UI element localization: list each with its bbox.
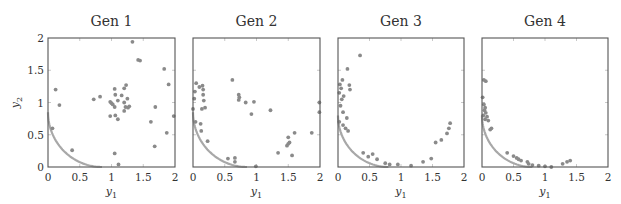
data-point — [429, 157, 433, 161]
x-tick-label: 0.5 — [71, 171, 88, 183]
data-point — [162, 67, 166, 71]
x-tick-label: 2 — [172, 171, 179, 183]
pareto-front-curve — [482, 115, 532, 167]
y-tick-label: 1.5 — [27, 64, 44, 76]
data-point — [113, 152, 117, 156]
x-tick-label: 1 — [108, 171, 115, 183]
data-point — [199, 129, 203, 133]
data-point — [149, 120, 153, 124]
data-point — [341, 123, 345, 127]
data-point — [58, 103, 62, 107]
y-tick-label: 0 — [37, 161, 44, 173]
data-point — [244, 101, 248, 105]
data-point — [252, 100, 256, 104]
data-point — [113, 87, 117, 91]
plot-frame — [338, 38, 464, 167]
data-point — [342, 94, 346, 98]
data-point — [201, 84, 205, 88]
data-point — [347, 83, 351, 87]
data-point — [519, 159, 523, 163]
data-point — [276, 151, 280, 155]
data-point — [113, 114, 117, 118]
data-point — [108, 114, 112, 118]
data-point — [127, 104, 131, 108]
data-point — [505, 151, 509, 155]
x-axis-label: y1 — [250, 185, 262, 200]
data-point — [113, 105, 117, 109]
x-tick-label: 1 — [542, 171, 549, 183]
x-axis-label: y1 — [394, 185, 406, 200]
data-point — [153, 144, 157, 148]
data-point — [120, 94, 124, 98]
data-point — [340, 97, 344, 101]
data-point — [138, 59, 142, 63]
x-tick-label: 1.5 — [280, 171, 297, 183]
data-point — [122, 101, 126, 105]
data-point — [194, 81, 198, 85]
panel-title: Gen 4 — [524, 13, 566, 29]
data-point — [388, 163, 392, 167]
data-point — [70, 148, 74, 152]
plot-frame — [193, 38, 320, 167]
data-point — [124, 83, 128, 87]
data-point — [237, 98, 241, 102]
x-tick-label: 0 — [335, 171, 342, 183]
x-tick-label: 1.5 — [135, 171, 152, 183]
data-point — [396, 163, 400, 167]
x-tick-label: 0.5 — [361, 171, 378, 183]
data-point — [233, 160, 237, 164]
pareto-front-curve — [338, 115, 388, 167]
data-point — [345, 116, 349, 120]
panel-title: Gen 3 — [380, 13, 422, 29]
data-point — [125, 97, 129, 101]
data-point — [346, 67, 350, 71]
data-point — [269, 108, 273, 112]
x-tick-label: 2 — [461, 171, 468, 183]
data-point — [254, 164, 258, 168]
panel-title: Gen 1 — [91, 13, 133, 29]
data-point — [201, 88, 205, 92]
data-point — [338, 83, 342, 87]
panel-1: Gen 100.511.5200.511.52y1y2 — [9, 13, 178, 200]
data-point — [201, 93, 205, 97]
data-point — [339, 86, 343, 90]
pareto-front-curve — [48, 112, 102, 167]
data-point — [92, 97, 96, 101]
data-point — [531, 163, 535, 167]
plot-frame — [482, 38, 608, 167]
y-axis-label: y2 — [9, 97, 24, 109]
data-point — [116, 117, 120, 121]
data-point — [113, 93, 117, 97]
data-point — [434, 141, 438, 145]
data-point — [285, 144, 289, 148]
data-point — [122, 86, 126, 90]
data-point — [165, 131, 169, 135]
panel-3: Gen 300.511.52y1 — [335, 13, 468, 200]
data-point — [226, 157, 230, 161]
data-point — [341, 110, 345, 114]
data-point — [194, 120, 198, 124]
data-point — [117, 163, 121, 167]
data-point — [341, 78, 345, 82]
data-point — [51, 126, 55, 130]
data-point — [202, 99, 206, 103]
data-point — [233, 156, 237, 160]
data-point — [561, 162, 565, 166]
data-point — [448, 121, 452, 125]
x-tick-label: 1 — [398, 171, 405, 183]
data-point — [371, 152, 375, 156]
data-point — [512, 154, 516, 158]
data-point — [98, 95, 102, 99]
data-point — [167, 83, 171, 87]
data-point — [421, 160, 425, 164]
data-point — [317, 110, 321, 114]
data-point — [543, 164, 547, 168]
panel-2: Gen 200.511.52y1 — [190, 13, 324, 200]
data-point — [293, 131, 297, 135]
y-tick-label: 0.5 — [27, 129, 44, 141]
x-tick-label: 2 — [605, 171, 612, 183]
data-point — [383, 161, 387, 165]
data-point — [131, 40, 135, 44]
data-point — [116, 99, 120, 103]
data-point — [310, 131, 314, 135]
